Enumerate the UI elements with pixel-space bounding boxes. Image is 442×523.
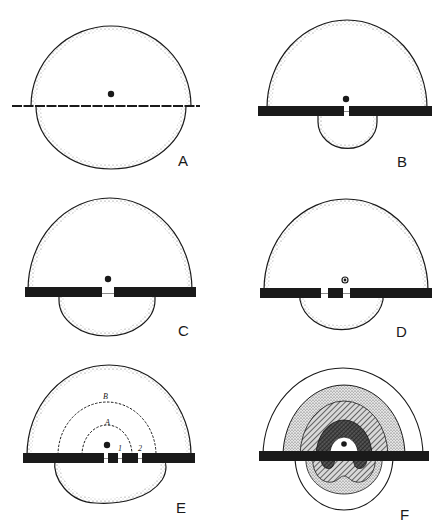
barrier-left <box>25 287 102 297</box>
panel-label-c: C <box>178 322 189 339</box>
barrier-right <box>350 288 432 298</box>
panel-label-f: F <box>400 506 409 523</box>
source-dot <box>343 96 349 102</box>
barrier-left <box>260 288 321 298</box>
panel-a: A <box>12 26 200 169</box>
diagram-canvas: A B C D <box>0 0 442 523</box>
source-dot <box>108 91 114 97</box>
source-dot-core <box>344 279 347 282</box>
barrier-left <box>258 106 344 116</box>
panel-e: B A 1 2 E <box>23 365 195 516</box>
arc-label-b: B <box>103 392 108 401</box>
source-dot <box>105 276 111 282</box>
panel-c: C <box>25 198 196 339</box>
gap-label-1: 1 <box>118 444 122 453</box>
upper-fill-inner <box>272 25 422 108</box>
panel-label-b: B <box>397 153 407 170</box>
lower-stipple-band <box>36 106 186 169</box>
gap-label-2: 2 <box>138 444 142 453</box>
panel-d: D <box>260 199 432 340</box>
barrier <box>259 451 429 461</box>
lower-semicircle <box>36 106 186 169</box>
barrier-right <box>114 287 196 297</box>
barrier-segment-3 <box>122 453 138 463</box>
source-dot <box>104 442 110 448</box>
barrier-segment-4 <box>142 453 195 463</box>
panel-label-e: E <box>176 499 186 516</box>
arc-label-a: A <box>104 418 110 427</box>
barrier-right <box>349 106 432 116</box>
panel-label-a: A <box>178 152 188 169</box>
upper-fill-inner <box>32 370 186 455</box>
barrier-middle <box>328 288 343 298</box>
panel-b: B <box>258 20 432 170</box>
panel-f: F <box>259 368 429 523</box>
barrier-segment-2 <box>108 453 118 463</box>
barrier-segment-1 <box>23 453 104 463</box>
source-dot <box>341 441 347 447</box>
panel-label-d: D <box>396 323 407 340</box>
